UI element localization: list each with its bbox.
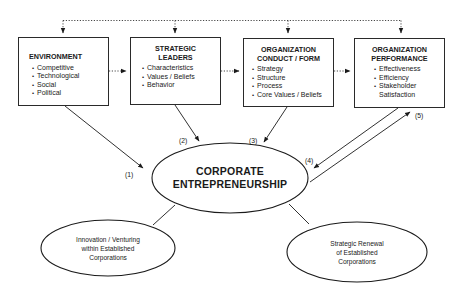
strategic-leaders-item: Behavior xyxy=(139,81,220,90)
path-label-1: (1) xyxy=(125,171,133,178)
strategic-leaders-items: Characteristics Values / Beliefs Behavio… xyxy=(139,64,220,90)
strategic-leaders-title: STRATEGIC LEADERS xyxy=(131,45,220,62)
organization-conduct-item: Strategy xyxy=(249,65,333,74)
environment-title: ENVIRONMENT xyxy=(29,53,108,62)
title-line: PERFORMANCE xyxy=(355,55,444,64)
center-line: ENTREPRENEURSHIP xyxy=(152,178,308,191)
outcome-line: Innovation / Venturing xyxy=(48,235,168,244)
outcome-line: of Established xyxy=(297,248,417,257)
strategic-leaders-item: Values / Beliefs xyxy=(139,73,220,82)
organization-performance-item: Effectiveness xyxy=(371,65,444,74)
organization-performance-items: Effectiveness Efficiency Stakeholder Sat… xyxy=(371,65,444,99)
organization-performance-item-continuation: Satisfaction xyxy=(371,91,444,100)
organization-performance-box: ORGANIZATION PERFORMANCE Effectiveness E… xyxy=(354,38,445,108)
organization-conduct-item: Process xyxy=(249,82,333,91)
path-label-4: (4) xyxy=(305,157,313,164)
organization-performance-item: Stakeholder xyxy=(371,82,444,91)
organization-conduct-item: Structure xyxy=(249,74,333,83)
strategic-leaders-box: STRATEGIC LEADERS Characteristics Values… xyxy=(130,37,221,105)
organization-conduct-box: ORGANIZATION CONDUCT / FORM Strategy Str… xyxy=(243,38,334,107)
environment-items: Competitive Technological Social Politic… xyxy=(29,64,108,98)
title-line: CONDUCT / FORM xyxy=(244,55,333,64)
environment-item: Political xyxy=(29,89,108,98)
strategic-renewal-label: Strategic Renewal of Established Corpora… xyxy=(297,239,417,266)
outcome-line: Strategic Renewal xyxy=(297,239,417,248)
organization-performance-item: Efficiency xyxy=(371,74,444,83)
organization-conduct-items: Strategy Structure Process Core Values /… xyxy=(249,65,333,99)
path-label-5: (5) xyxy=(415,112,423,119)
environment-box: ENVIRONMENT Competitive Technological So… xyxy=(18,37,109,106)
organization-conduct-title: ORGANIZATION CONDUCT / FORM xyxy=(244,46,333,63)
outcome-line: Corporations xyxy=(297,257,417,266)
organization-performance-title: ORGANIZATION PERFORMANCE xyxy=(355,46,444,63)
environment-item: Social xyxy=(29,81,108,90)
title-line: LEADERS xyxy=(131,54,220,63)
center-line: CORPORATE xyxy=(152,165,308,178)
outcome-line: Corporations xyxy=(48,253,168,262)
strategic-leaders-item: Characteristics xyxy=(139,64,220,73)
path-label-2: (2) xyxy=(179,137,187,144)
environment-item: Competitive xyxy=(29,64,108,73)
feedback-dotted-line xyxy=(63,21,401,34)
organization-conduct-item: Core Values / Beliefs xyxy=(249,91,333,100)
outcome-line: within Established xyxy=(48,244,168,253)
corporate-entrepreneurship-label: CORPORATE ENTREPRENEURSHIP xyxy=(152,165,308,191)
innovation-venturing-label: Innovation / Venturing within Establishe… xyxy=(48,235,168,262)
path-label-3: (3) xyxy=(249,137,257,144)
environment-item: Technological xyxy=(29,72,108,81)
